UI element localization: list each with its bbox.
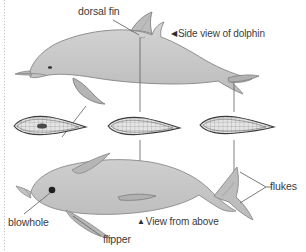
- label-blowhole: blowhole: [8, 216, 49, 228]
- leader-flipper: [73, 216, 101, 236]
- side-view-flipper: [73, 78, 105, 104]
- label-dorsal-fin: dorsal fin: [78, 5, 120, 17]
- top-view-body: [31, 160, 236, 215]
- caption-view-from-above: ▲View from above: [137, 216, 219, 227]
- fluke-cross-section: [200, 116, 274, 133]
- caption-side-view-text: Side view of dolphin: [178, 28, 265, 39]
- flipper-cross-section: [108, 117, 180, 134]
- label-flukes: flukes: [270, 180, 297, 192]
- caption-side-view: ◀Side view of dolphin: [171, 28, 265, 39]
- caption-view-from-above-text: View from above: [146, 216, 219, 227]
- up-triangle-icon: ▲: [137, 217, 145, 226]
- cross-section-row: [14, 116, 274, 134]
- blowhole-dot: [49, 187, 56, 194]
- dorsal-fin-cross-section: [14, 116, 86, 134]
- side-view-dolphin: [15, 12, 259, 104]
- flukes-bracket: [240, 172, 266, 203]
- side-view-dorsal-fin: [131, 12, 152, 34]
- left-triangle-icon: ◀: [171, 29, 177, 38]
- side-view-eye: [48, 66, 52, 69]
- top-view-rostrum: [16, 186, 31, 198]
- top-view-flukes: [214, 167, 253, 220]
- dolphin-anatomy-figure: dorsal fin ◀Side view of dolphin blowhol…: [0, 0, 306, 252]
- label-flipper: flipper: [103, 233, 131, 245]
